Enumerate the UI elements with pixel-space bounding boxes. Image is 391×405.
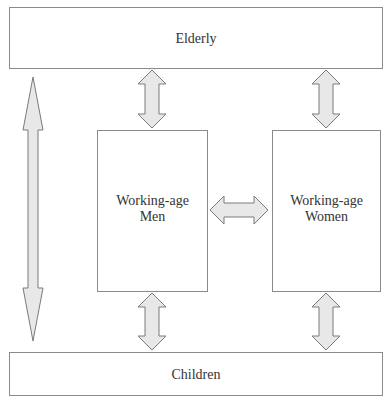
elderly-women-double-arrow [312, 70, 340, 128]
elderly-label: Elderly [175, 31, 216, 46]
women-children-double-arrow [312, 293, 340, 350]
family-transfer-diagram: Elderly Working-age Men Working-age Wome… [0, 0, 391, 405]
men-women-double-arrow [210, 196, 268, 224]
elderly-children-double-arrow [23, 77, 43, 341]
children-label: Children [172, 367, 221, 382]
men-children-double-arrow [138, 293, 166, 350]
elderly-men-double-arrow [138, 70, 166, 128]
working-age-men-label-line2: Men [140, 209, 166, 224]
working-age-women-label-line1: Working-age [290, 193, 363, 208]
working-age-men-label-line1: Working-age [116, 193, 189, 208]
working-age-women-label-line2: Women [305, 209, 348, 224]
